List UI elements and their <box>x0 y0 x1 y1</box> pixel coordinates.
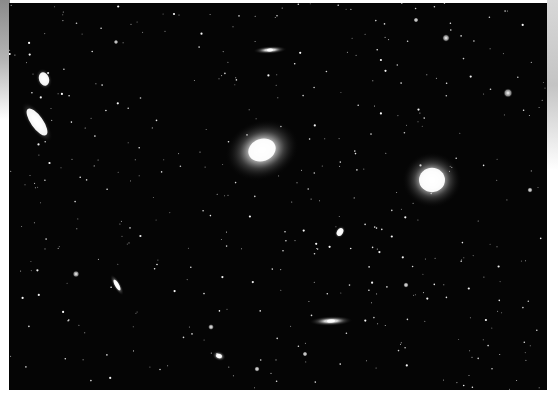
star <box>404 216 406 218</box>
star <box>540 238 542 240</box>
star <box>130 24 131 25</box>
star <box>280 290 281 291</box>
star <box>528 300 530 302</box>
star <box>536 330 538 332</box>
star <box>259 310 261 312</box>
star <box>221 75 222 76</box>
star <box>199 152 200 153</box>
star <box>58 93 59 94</box>
star <box>276 338 278 340</box>
star <box>294 63 296 65</box>
star <box>241 248 242 249</box>
star <box>189 326 190 327</box>
star <box>284 231 286 233</box>
star <box>483 277 484 278</box>
star <box>282 250 284 252</box>
star <box>356 55 357 56</box>
star <box>469 350 470 351</box>
bright-star <box>114 40 119 45</box>
star <box>470 76 472 78</box>
star <box>76 228 77 229</box>
star <box>20 271 21 272</box>
star <box>130 180 131 181</box>
galaxies <box>16 45 462 363</box>
star <box>267 74 269 76</box>
star <box>83 359 84 360</box>
star <box>48 162 50 164</box>
star <box>339 363 341 365</box>
star <box>226 309 227 310</box>
star <box>163 159 164 160</box>
star <box>98 159 99 160</box>
star <box>450 29 452 31</box>
star <box>376 367 377 368</box>
star <box>254 196 256 198</box>
star <box>71 121 73 123</box>
star <box>63 69 65 71</box>
star <box>539 387 540 388</box>
star <box>499 354 500 355</box>
star <box>400 344 401 345</box>
star <box>386 286 388 288</box>
galaxy-edge-on-lower-left <box>108 273 127 298</box>
star <box>58 248 59 249</box>
star <box>276 74 277 75</box>
star <box>50 108 51 109</box>
star <box>503 53 504 54</box>
bright-star <box>413 17 418 22</box>
bright-star <box>302 351 307 356</box>
star <box>298 3 300 5</box>
star <box>159 369 161 371</box>
star <box>301 170 302 171</box>
star <box>350 9 351 10</box>
star <box>365 34 366 35</box>
star <box>123 42 124 43</box>
star <box>296 182 297 183</box>
star <box>463 58 465 60</box>
star <box>407 319 409 321</box>
star <box>174 290 176 292</box>
star <box>153 197 154 198</box>
star <box>135 313 136 314</box>
star <box>446 297 448 299</box>
star <box>385 325 386 326</box>
galaxy-large-elliptical-center <box>216 109 308 191</box>
star <box>98 259 99 260</box>
star <box>400 82 402 84</box>
star <box>391 235 393 237</box>
star <box>190 267 192 269</box>
star <box>417 219 418 220</box>
star <box>417 109 419 111</box>
star <box>347 52 348 53</box>
star <box>85 127 86 128</box>
star <box>370 133 372 135</box>
star <box>350 248 352 250</box>
star <box>32 74 33 75</box>
star <box>100 28 102 30</box>
star <box>255 16 256 17</box>
star <box>473 255 474 256</box>
star <box>384 23 386 25</box>
star <box>205 167 206 168</box>
star <box>139 175 140 176</box>
star <box>173 13 175 15</box>
star <box>376 49 378 51</box>
star <box>68 95 70 97</box>
star <box>28 326 30 328</box>
star <box>521 261 522 262</box>
star <box>525 260 526 261</box>
star <box>142 32 143 33</box>
star <box>426 298 428 300</box>
bright-stars <box>72 17 532 372</box>
star <box>44 248 45 249</box>
star <box>38 155 39 156</box>
star <box>463 385 465 387</box>
star <box>315 381 317 383</box>
star <box>128 242 129 243</box>
bright-star <box>403 282 409 288</box>
star <box>422 126 423 127</box>
star <box>200 33 202 35</box>
star <box>299 52 301 54</box>
star <box>133 350 134 351</box>
star <box>490 48 491 49</box>
